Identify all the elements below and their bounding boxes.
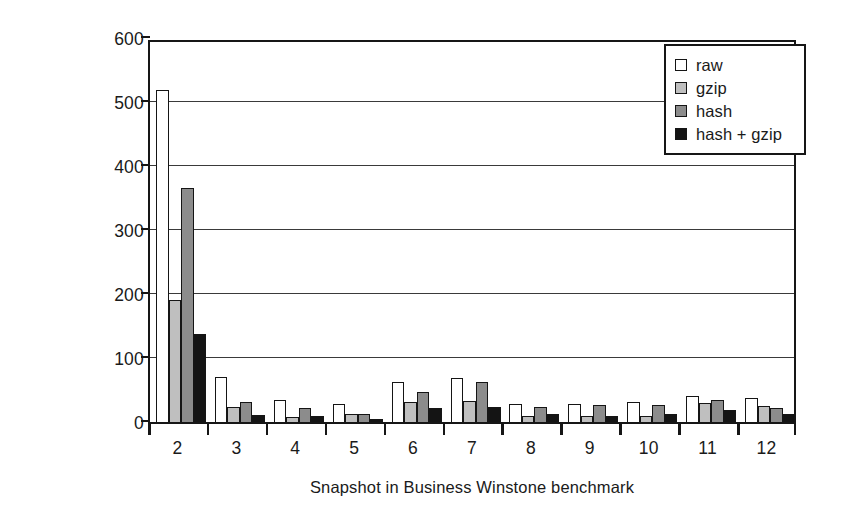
bar: [509, 404, 522, 422]
y-tick-mark: [141, 420, 150, 423]
bar: [274, 400, 287, 422]
bar-group: [451, 42, 501, 422]
x-tick-label: 3: [231, 438, 241, 458]
bar: [215, 377, 228, 422]
x-tick-mark: [148, 424, 151, 435]
bar: [392, 382, 405, 422]
bar: [463, 401, 476, 422]
y-tick-mark: [141, 356, 150, 359]
y-tick-mark: [141, 164, 150, 167]
x-tick-label: 11: [698, 438, 717, 458]
bar-group: [568, 42, 618, 422]
y-tick-label: 0: [92, 415, 144, 433]
legend-item: hash + gzip: [675, 122, 795, 145]
x-tick-label: 6: [408, 438, 418, 458]
bar: [181, 188, 194, 422]
bar: [252, 415, 265, 422]
y-tick-mark: [141, 36, 150, 39]
bar-group: [509, 42, 559, 422]
x-tick-label: 12: [757, 438, 777, 458]
bar: [581, 416, 594, 422]
bar: [745, 398, 758, 422]
x-tick-mark: [207, 424, 210, 435]
bar: [286, 417, 299, 422]
y-tick-label: 300: [92, 223, 144, 241]
bar: [476, 382, 489, 422]
bar: [568, 404, 581, 422]
bar: [358, 414, 371, 422]
y-axis-tick-labels: 0100200300400500600: [92, 0, 144, 527]
y-tick-label: 500: [92, 95, 144, 113]
bar-group: [392, 42, 442, 422]
y-tick-mark: [141, 292, 150, 295]
x-tick-label: 8: [526, 438, 536, 458]
bar: [345, 414, 358, 422]
legend-swatch-icon: [675, 128, 687, 140]
bar: [417, 392, 430, 422]
x-tick-label: 7: [467, 438, 477, 458]
legend-swatch-icon: [675, 105, 687, 117]
bar: [547, 414, 560, 422]
legend-label: hash: [696, 102, 732, 120]
bar-group: [156, 42, 206, 422]
legend-label: raw: [696, 56, 723, 74]
bar: [758, 406, 771, 422]
y-tick-mark: [141, 100, 150, 103]
bar: [640, 416, 653, 422]
bar: [770, 408, 783, 422]
bar: [227, 407, 240, 422]
x-tick-label: 9: [585, 438, 595, 458]
x-tick-label: 2: [172, 438, 182, 458]
x-tick-mark: [325, 424, 328, 435]
bar: [686, 396, 699, 422]
bar: [783, 414, 796, 422]
bar: [169, 300, 182, 422]
bar: [451, 378, 464, 422]
x-tick-mark: [384, 424, 387, 435]
bar: [333, 404, 346, 422]
y-tick-label: 200: [92, 287, 144, 305]
bar: [665, 414, 678, 422]
legend-swatch-icon: [675, 82, 687, 94]
bar-group: [333, 42, 383, 422]
legend-item: raw: [675, 53, 795, 76]
bar: [534, 407, 547, 422]
bar: [593, 405, 606, 422]
bar: [370, 419, 383, 422]
legend-swatch-icon: [675, 59, 687, 71]
bar: [522, 416, 535, 422]
x-axis: 23456789101112: [148, 424, 796, 470]
y-tick-label: 600: [92, 31, 144, 49]
bar: [724, 410, 737, 422]
bar: [240, 402, 253, 422]
x-tick-label: 10: [639, 438, 659, 458]
x-tick-mark: [794, 424, 797, 435]
legend-item: gzip: [675, 76, 795, 99]
bar-group: [274, 42, 324, 422]
y-tick-label: 400: [92, 159, 144, 177]
legend-item: hash: [675, 99, 795, 122]
bar: [299, 408, 312, 422]
x-tick-label: 5: [349, 438, 359, 458]
x-tick-mark: [737, 424, 740, 435]
legend-label: hash + gzip: [696, 125, 782, 143]
bar: [194, 334, 207, 422]
bar: [652, 405, 665, 422]
x-tick-mark: [443, 424, 446, 435]
bar: [429, 408, 442, 422]
y-tick-mark: [141, 228, 150, 231]
x-tick-mark: [560, 424, 563, 435]
x-tick-mark: [619, 424, 622, 435]
bar: [711, 400, 724, 422]
legend: rawgziphashhash + gzip: [664, 44, 806, 155]
x-tick-mark: [678, 424, 681, 435]
bar: [404, 402, 417, 422]
bar: [488, 407, 501, 422]
bar: [699, 403, 712, 422]
x-tick-mark: [266, 424, 269, 435]
bar: [156, 90, 169, 422]
bar: [606, 416, 619, 422]
x-tick-mark: [501, 424, 504, 435]
bar: [311, 416, 324, 422]
x-tick-label: 4: [290, 438, 300, 458]
